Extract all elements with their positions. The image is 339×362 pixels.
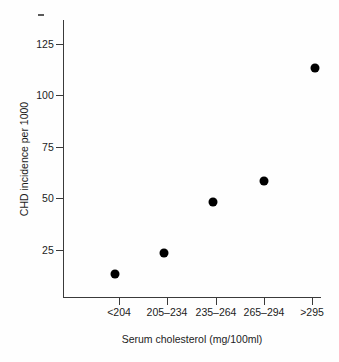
x-axis-tick-mark bbox=[216, 298, 217, 305]
x-axis-tick-label: 265–294 bbox=[244, 306, 285, 318]
x-axis-tick-label: >295 bbox=[300, 306, 324, 318]
y-axis-title: CHD incidence per 1000 bbox=[18, 69, 30, 249]
data-point bbox=[111, 270, 120, 279]
scatter-plot-figure: 125100755025 <204205–234235–264265–294>2… bbox=[0, 0, 339, 362]
y-axis-tick-label: 25 bbox=[8, 244, 54, 256]
data-point bbox=[160, 249, 169, 258]
x-axis-tick-label: <204 bbox=[107, 306, 131, 318]
x-axis-tick-mark bbox=[167, 298, 168, 305]
y-axis-tick-mark bbox=[56, 198, 63, 199]
y-axis-tick-label: 100 bbox=[8, 89, 54, 101]
x-axis-tick-label: 205–234 bbox=[147, 306, 188, 318]
x-axis-line bbox=[63, 297, 321, 298]
y-axis-tick-label: 75 bbox=[8, 141, 54, 153]
y-axis-tick-mark bbox=[56, 147, 63, 148]
y-axis-tick-mark bbox=[56, 95, 63, 96]
x-axis-tick-label: 235–264 bbox=[196, 306, 237, 318]
x-axis-tick-mark bbox=[264, 298, 265, 305]
data-point bbox=[311, 64, 320, 73]
x-axis-title: Serum cholesterol (mg/100ml) bbox=[63, 333, 321, 345]
x-axis-tick-mark bbox=[119, 298, 120, 305]
x-axis-tick-mark bbox=[312, 298, 313, 305]
data-point bbox=[260, 177, 269, 186]
y-axis-tick-mark bbox=[56, 250, 63, 251]
y-axis-tick-label-wrap: 125 bbox=[0, 38, 54, 50]
y-axis-tick-label: 125 bbox=[8, 38, 54, 50]
y-axis-line bbox=[63, 20, 64, 298]
scan-artifact-dash bbox=[38, 14, 44, 16]
y-axis-tick-mark bbox=[56, 44, 63, 45]
y-axis-tick-label: 50 bbox=[8, 192, 54, 204]
data-point bbox=[209, 198, 218, 207]
